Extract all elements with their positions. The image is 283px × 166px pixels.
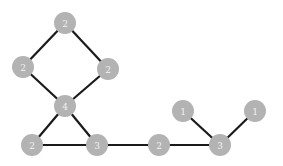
node-right: 2 xyxy=(97,58,119,80)
node-label: 3 xyxy=(217,141,223,151)
nodes-layer: 2224232311 xyxy=(12,12,266,156)
node-label: 4 xyxy=(62,102,68,112)
node-left: 2 xyxy=(12,56,34,78)
node-mid: 2 xyxy=(148,134,170,156)
node-center: 4 xyxy=(54,95,76,117)
node-leaf-b: 1 xyxy=(244,100,266,122)
edges-layer xyxy=(23,23,255,145)
node-top: 2 xyxy=(54,12,76,34)
node-label: 2 xyxy=(156,141,162,151)
node-label: 2 xyxy=(20,63,26,73)
node-bottom-left: 2 xyxy=(21,134,43,156)
node-leaf-a: 1 xyxy=(172,100,194,122)
node-label: 1 xyxy=(180,107,186,117)
node-label: 3 xyxy=(94,141,100,151)
node-bottom-right: 3 xyxy=(209,134,231,156)
node-label: 2 xyxy=(105,65,111,75)
node-bottom-mid: 3 xyxy=(86,134,108,156)
node-label: 2 xyxy=(62,19,68,29)
node-label: 2 xyxy=(29,141,35,151)
node-label: 1 xyxy=(252,107,258,117)
graph-diagram: 2224232311 xyxy=(0,0,283,166)
